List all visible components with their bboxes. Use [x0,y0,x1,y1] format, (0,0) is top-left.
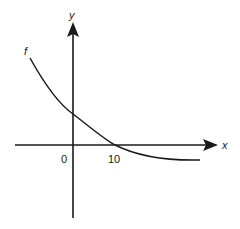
y-axis-label: y [68,9,76,21]
curve-label: f [24,45,28,57]
tick-label-10: 10 [108,153,120,165]
x-axis-label: x [221,139,228,151]
origin-label: 0 [61,153,67,165]
function-graph: f y x 0 10 [0,0,240,229]
